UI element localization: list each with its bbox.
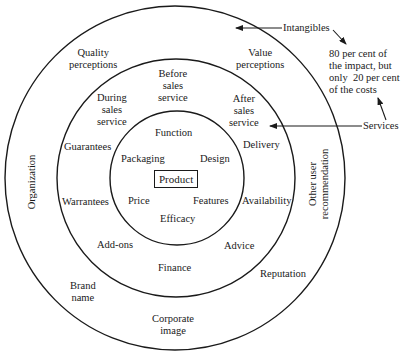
service-delivery: Delivery [243,139,280,151]
product-box: Product [154,170,198,188]
core-design: Design [200,153,230,165]
service-add-ons: Add-ons [97,239,133,251]
service-guarantees: Guarantees [64,141,111,153]
annotation-intangibles: Intangibles [283,22,330,34]
intangible-brand-name: Brand name [70,280,96,304]
annotation-services: Services [363,120,399,132]
core-packaging: Packaging [121,153,165,165]
annotation-note: 80 per cent of the impact, but only 20 p… [329,48,400,96]
core-function: Function [155,127,192,139]
service-finance: Finance [158,262,191,274]
intangible-corporate-image: Corporate image [152,313,194,337]
intangible-reputation: Reputation [260,268,306,280]
core-price: Price [128,195,150,207]
intangible-organization: Organization [26,152,38,212]
service-availability: Availability [242,195,291,207]
service-warrantees: Warrantees [62,196,109,208]
service-before-sales: Before sales service [158,68,188,104]
service-advice: Advice [224,240,254,252]
service-during-sales: During sales service [97,92,127,128]
product-label: Product [159,173,193,185]
intangibles-note-arrow [333,30,346,44]
services-note-arrow [378,98,386,120]
intangible-value-perceptions: Value perceptions [236,47,284,71]
core-efficacy: Efficacy [160,213,195,225]
core-features: Features [193,195,229,207]
service-after-sales: After sales service [229,93,259,129]
intangible-other-user-recommendation: Other user recommendation [307,144,331,224]
intangible-quality-perceptions: Quality perceptions [69,47,117,71]
